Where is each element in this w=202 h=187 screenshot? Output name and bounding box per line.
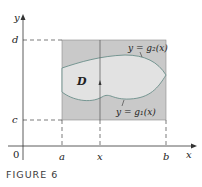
x-axis-label: x (186, 149, 192, 160)
tick-label-x: x (97, 151, 103, 162)
origin-label: 0 (13, 149, 19, 160)
x-axis-arrow-icon (191, 144, 197, 149)
lower-curve-label: y = g₁(x) (115, 107, 156, 117)
region-label: D (76, 75, 87, 88)
upper-curve-label: y = g₂(x) (127, 43, 168, 53)
tick-label-b: b (163, 151, 169, 162)
tick-label-c: c (12, 114, 18, 125)
figure-diagram: y x 0 a x b d c D y = g₂(x) y = g₁(x) (0, 0, 202, 187)
tick-label-d: d (12, 34, 18, 45)
tick-label-a: a (59, 151, 65, 162)
y-axis-label: y (13, 12, 20, 23)
y-axis-arrow-icon (21, 14, 26, 20)
figure-caption: FIGURE 6 (6, 169, 58, 180)
